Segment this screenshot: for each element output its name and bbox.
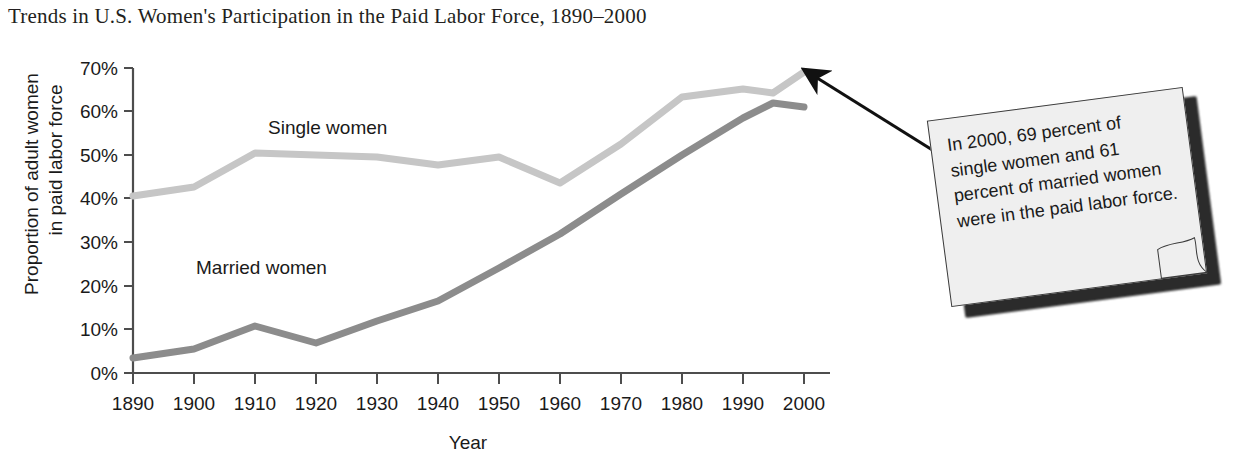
x-tick-label-1910: 1910 — [234, 393, 276, 414]
y-tick-label-40: 40% — [80, 188, 118, 209]
y-tick-label-10: 10% — [80, 319, 118, 340]
y-axis-title-line2: in paid labor force — [45, 84, 66, 235]
x-tick-label-1950: 1950 — [478, 393, 520, 414]
x-tick-label-1900: 1900 — [173, 393, 215, 414]
x-axis-title: Year — [449, 432, 488, 453]
x-tick-label-1930: 1930 — [356, 393, 398, 414]
series-label-single-women: Single women — [268, 117, 387, 138]
x-tick-label-1970: 1970 — [600, 393, 642, 414]
chart-svg: 70% 60% 50% 40% 30% 20% 10% 0% — [0, 0, 900, 463]
series-line-married-women — [133, 103, 804, 358]
x-tick-label-1940: 1940 — [417, 393, 459, 414]
y-tick-label-30: 30% — [80, 232, 118, 253]
x-tick-label-1980: 1980 — [661, 393, 703, 414]
x-tick-label-1990: 1990 — [722, 393, 764, 414]
chart-plot-area: 70% 60% 50% 40% 30% 20% 10% 0% — [0, 0, 900, 463]
y-tick-label-0: 0% — [91, 363, 119, 384]
y-tick-label-50: 50% — [80, 145, 118, 166]
series-line-single-women — [133, 72, 804, 196]
callout-curl-corner — [1157, 236, 1208, 280]
series-label-married-women: Married women — [196, 257, 327, 278]
y-axis-ticks — [124, 68, 133, 373]
y-tick-label-20: 20% — [80, 276, 118, 297]
y-tick-label-60: 60% — [80, 101, 118, 122]
figure-root: Trends in U.S. Women's Participation in … — [0, 0, 1249, 463]
x-axis-ticks — [133, 373, 804, 384]
callout-note: In 2000, 69 percent of single women and … — [927, 87, 1207, 307]
x-tick-label-1920: 1920 — [295, 393, 337, 414]
x-tick-label-1890: 1890 — [112, 393, 154, 414]
y-tick-label-70: 70% — [80, 58, 118, 79]
x-tick-label-2000: 2000 — [783, 393, 825, 414]
y-axis-title-line1: Proportion of adult women — [21, 73, 42, 295]
callout-note-text: In 2000, 69 percent of single women and … — [946, 104, 1181, 235]
x-tick-label-1960: 1960 — [539, 393, 581, 414]
